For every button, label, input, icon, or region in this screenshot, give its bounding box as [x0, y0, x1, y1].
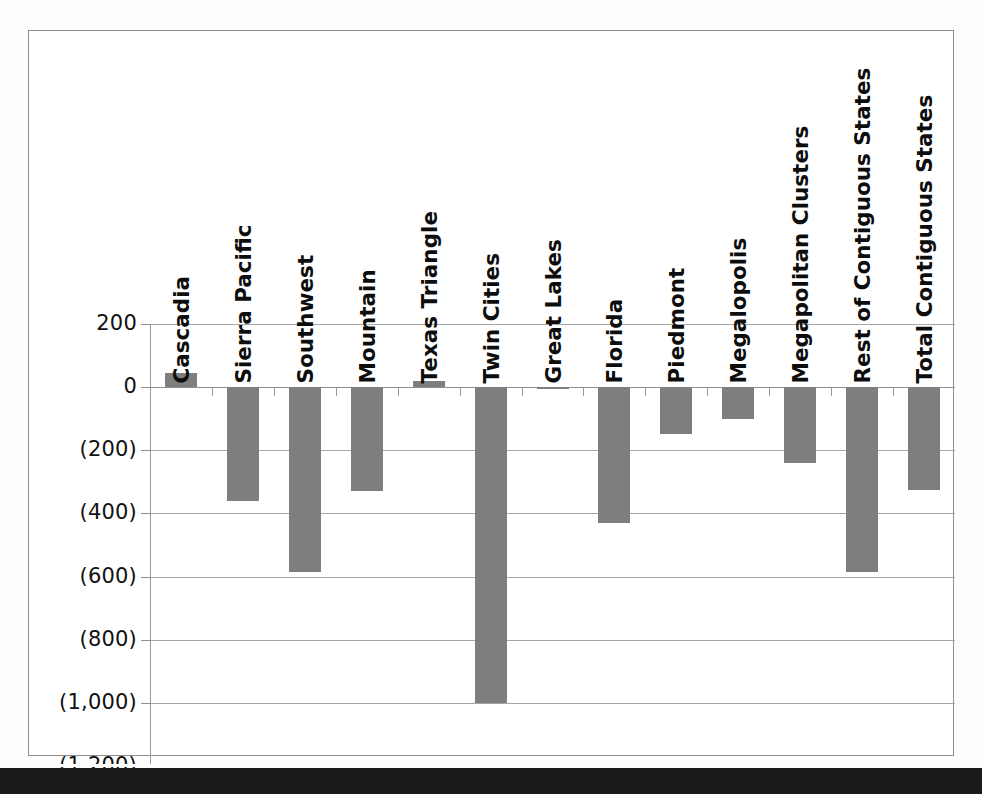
y-axis-tick — [141, 577, 151, 578]
x-axis-category-label: Megapolitan Clusters — [790, 125, 812, 383]
bar[interactable] — [475, 387, 507, 703]
x-axis-category-label: Piedmont — [666, 267, 688, 383]
bar[interactable] — [537, 387, 569, 389]
y-axis-tick — [141, 387, 151, 388]
bar[interactable] — [289, 387, 321, 572]
x-axis-minor-tick — [522, 387, 523, 396]
plot-area: CascadiaSierra PacificSouthwestMountainT… — [150, 324, 955, 766]
x-axis-minor-tick — [583, 387, 584, 396]
bar[interactable] — [227, 387, 259, 501]
x-axis-minor-tick — [212, 387, 213, 396]
bar[interactable] — [908, 387, 940, 490]
x-axis-minor-tick — [336, 387, 337, 396]
x-axis-category-label: Mountain — [356, 269, 378, 383]
x-axis-category-label: Southwest — [294, 254, 316, 383]
x-axis-category-label: Twin Cities — [480, 253, 502, 384]
bar[interactable] — [722, 387, 754, 419]
y-axis-tick — [141, 640, 151, 641]
bar[interactable] — [660, 387, 692, 434]
x-axis-category-label: Great Lakes — [542, 239, 564, 383]
gridline — [150, 640, 955, 641]
x-axis-minor-tick — [460, 387, 461, 396]
bar[interactable] — [351, 387, 383, 491]
y-axis-tick-label: (1,000) — [29, 690, 137, 714]
y-axis-tick-label: (400) — [29, 500, 137, 524]
scan-artifact-band — [0, 768, 982, 794]
x-axis-minor-tick — [274, 387, 275, 396]
x-axis-minor-tick — [707, 387, 708, 396]
y-axis-tick — [141, 703, 151, 704]
gridline — [150, 450, 955, 451]
x-axis-category-label: Rest of Contiguous States — [852, 67, 874, 383]
x-axis-category-label: Megalopolis — [728, 237, 750, 383]
y-axis-tick — [141, 450, 151, 451]
y-axis-labels: 2000(200)(400)(600)(800)(1,000)(1,200) — [29, 324, 137, 766]
bar[interactable] — [846, 387, 878, 572]
gridline — [150, 577, 955, 578]
gridline — [150, 703, 955, 704]
y-axis-tick-label: (200) — [29, 437, 137, 461]
x-axis-category-label: Florida — [604, 298, 626, 383]
x-axis-minor-tick — [645, 387, 646, 396]
scanned-page: 2000(200)(400)(600)(800)(1,000)(1,200) C… — [0, 0, 982, 794]
y-axis-tick-label: 0 — [29, 374, 137, 398]
y-axis-tick-label: 200 — [29, 311, 137, 335]
x-axis-category-label: Sierra Pacific — [232, 224, 254, 383]
x-axis-category-label: Texas Triangle — [418, 211, 440, 383]
x-axis-minor-tick — [398, 387, 399, 396]
x-axis-minor-tick — [769, 387, 770, 396]
x-axis-minor-tick — [893, 387, 894, 396]
x-axis-category-label: Total Contiguous States — [914, 94, 936, 383]
chart-frame: 2000(200)(400)(600)(800)(1,000)(1,200) C… — [28, 30, 954, 756]
bar[interactable] — [598, 387, 630, 523]
bar[interactable] — [784, 387, 816, 463]
y-axis-tick-label: (600) — [29, 564, 137, 588]
x-axis-minor-tick — [831, 387, 832, 396]
y-axis-tick — [141, 513, 151, 514]
y-axis-tick-label: (800) — [29, 627, 137, 651]
gridline — [150, 513, 955, 514]
x-axis-category-label: Cascadia — [170, 276, 192, 384]
y-axis-tick — [141, 324, 151, 325]
